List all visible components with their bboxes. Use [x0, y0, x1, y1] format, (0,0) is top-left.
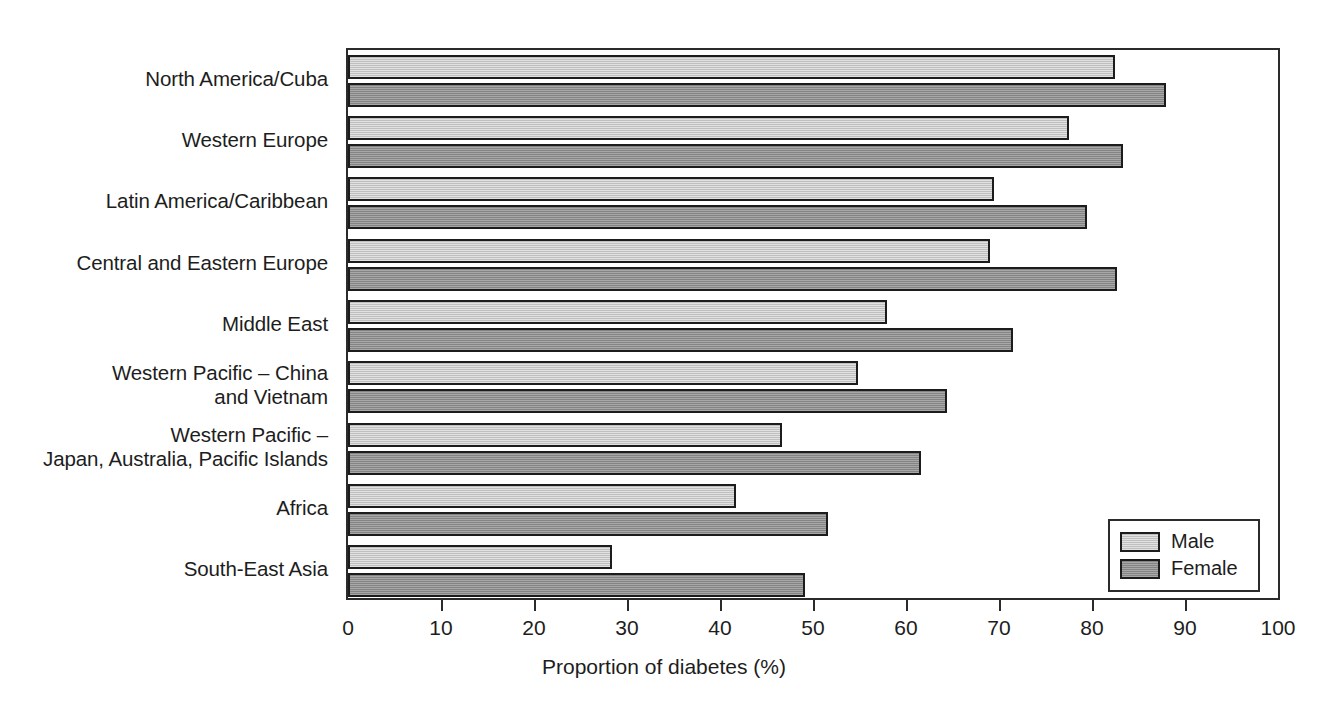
- x-tick-label-80: 80: [1080, 616, 1103, 640]
- bar-female-4: [348, 328, 1013, 352]
- category-label-6: Western Pacific – Japan, Australia, Paci…: [43, 423, 328, 471]
- bar-male-1: [348, 116, 1069, 140]
- legend-item-male: Male: [1120, 528, 1248, 555]
- x-tick-label-30: 30: [615, 616, 638, 640]
- category-label-2: Latin America/Caribbean: [106, 189, 328, 213]
- category-label-0: North America/Cuba: [145, 67, 328, 91]
- x-tick-label-50: 50: [801, 616, 824, 640]
- bar-female-0: [348, 83, 1166, 107]
- bar-male-2: [348, 177, 994, 201]
- x-tick-label-90: 90: [1173, 616, 1196, 640]
- plot-area: [346, 48, 1280, 600]
- x-tick-20: [534, 600, 536, 611]
- x-tick-80: [1092, 600, 1094, 611]
- bar-female-2: [348, 205, 1087, 229]
- legend-item-female: Female: [1120, 555, 1248, 582]
- legend: Male Female: [1108, 519, 1260, 592]
- chart-figure: North America/CubaWestern EuropeLatin Am…: [0, 0, 1328, 720]
- x-tick-50: [813, 600, 815, 611]
- legend-label-male: Male: [1171, 530, 1214, 553]
- bar-male-4: [348, 300, 887, 324]
- x-tick-label-0: 0: [342, 616, 354, 640]
- x-tick-label-20: 20: [522, 616, 545, 640]
- bar-female-6: [348, 451, 921, 475]
- category-axis-labels: North America/CubaWestern EuropeLatin Am…: [0, 48, 338, 600]
- legend-swatch-male: [1120, 532, 1160, 552]
- x-tick-label-10: 10: [429, 616, 452, 640]
- x-tick-70: [999, 600, 1001, 611]
- bars-container: [348, 50, 1278, 598]
- bar-female-7: [348, 512, 828, 536]
- x-tick-label-100: 100: [1260, 616, 1295, 640]
- x-tick-label-60: 60: [894, 616, 917, 640]
- x-tick-10: [441, 600, 443, 611]
- category-label-5: Western Pacific – China and Vietnam: [112, 361, 328, 409]
- x-tick-90: [1185, 600, 1187, 611]
- x-tick-label-70: 70: [987, 616, 1010, 640]
- bar-male-7: [348, 484, 736, 508]
- x-tick-label-40: 40: [708, 616, 731, 640]
- bar-male-6: [348, 423, 782, 447]
- x-tick-40: [720, 600, 722, 611]
- bar-female-3: [348, 267, 1117, 291]
- category-label-8: South-East Asia: [184, 557, 328, 581]
- category-label-1: Western Europe: [182, 128, 328, 152]
- bar-male-8: [348, 545, 612, 569]
- category-label-7: Africa: [276, 496, 328, 520]
- bar-female-8: [348, 573, 805, 597]
- bar-female-5: [348, 389, 947, 413]
- x-tick-60: [906, 600, 908, 611]
- legend-swatch-female: [1120, 559, 1160, 579]
- category-label-4: Middle East: [222, 312, 328, 336]
- category-label-3: Central and Eastern Europe: [76, 251, 328, 275]
- bar-female-1: [348, 144, 1123, 168]
- bar-male-3: [348, 239, 990, 263]
- legend-label-female: Female: [1171, 557, 1238, 580]
- x-axis-title: Proportion of diabetes (%): [0, 655, 1328, 679]
- bar-male-0: [348, 55, 1115, 79]
- x-tick-30: [627, 600, 629, 611]
- bar-male-5: [348, 361, 858, 385]
